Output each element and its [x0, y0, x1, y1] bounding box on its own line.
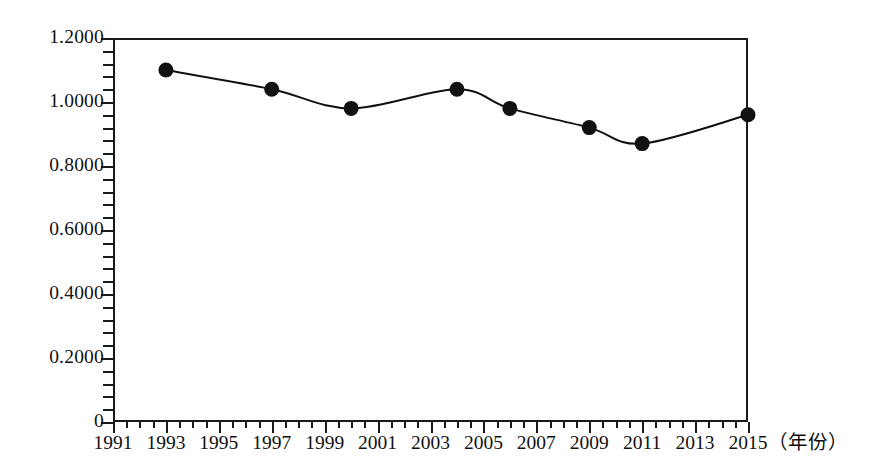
- y-axis-minor-tick: [103, 409, 113, 411]
- y-axis-minor-tick: [103, 307, 113, 309]
- x-axis-tick-label: 2003: [411, 432, 450, 453]
- y-axis-minor-tick: [103, 179, 113, 181]
- x-axis-tick-label: 2015: [729, 432, 768, 453]
- x-axis-minor-tick: [457, 422, 459, 428]
- x-axis-minor-tick: [510, 422, 512, 428]
- y-axis-minor-tick: [103, 268, 113, 270]
- y-axis-tick-label: 0.8000: [49, 155, 104, 175]
- x-axis-minor-tick: [523, 422, 525, 428]
- x-axis-minor-tick: [245, 422, 247, 428]
- x-axis-tick-label: 2007: [517, 432, 556, 453]
- x-axis-minor-tick: [708, 422, 710, 428]
- x-axis-minor-tick: [602, 422, 604, 428]
- y-axis-minor-tick: [103, 76, 113, 78]
- y-axis-minor-tick: [103, 396, 113, 398]
- plot-area-frame: [113, 38, 748, 422]
- y-axis-tick-label: 1.2000: [49, 27, 104, 47]
- x-axis-minor-tick: [404, 422, 406, 428]
- x-axis-minor-tick: [153, 422, 155, 428]
- x-axis-minor-tick: [576, 422, 578, 428]
- y-axis-minor-tick: [103, 345, 113, 347]
- y-axis-tick-label: 0.4000: [49, 283, 104, 303]
- x-axis-minor-tick: [444, 422, 446, 428]
- x-axis-minor-tick: [616, 422, 618, 428]
- y-axis-minor-tick: [103, 204, 113, 206]
- y-axis-minor-tick: [103, 115, 113, 117]
- x-axis-tick-label: 1999: [305, 432, 344, 453]
- x-axis-tick-label: 1995: [199, 432, 238, 453]
- y-axis-minor-tick: [103, 320, 113, 322]
- x-axis-minor-tick: [259, 422, 261, 428]
- x-axis-minor-tick: [497, 422, 499, 428]
- x-axis-minor-tick: [417, 422, 419, 428]
- y-axis-tick-label: 0.2000: [49, 347, 104, 367]
- x-axis-minor-tick: [192, 422, 194, 428]
- y-axis-minor-tick: [103, 89, 113, 91]
- y-axis-tick-label: 1.0000: [49, 91, 104, 111]
- x-axis-minor-tick: [232, 422, 234, 428]
- x-axis-tick-label: 2013: [676, 432, 715, 453]
- y-axis-minor-tick: [103, 332, 113, 334]
- y-axis-minor-tick: [103, 243, 113, 245]
- x-axis-minor-tick: [629, 422, 631, 428]
- y-axis-minor-tick: [103, 128, 113, 130]
- x-axis-minor-tick: [139, 422, 141, 428]
- y-axis-minor-tick: [103, 371, 113, 373]
- x-axis-minor-tick: [338, 422, 340, 428]
- y-axis-tick-label: 0.6000: [49, 219, 104, 239]
- x-axis-minor-tick: [311, 422, 313, 428]
- y-axis-minor-tick: [103, 153, 113, 155]
- x-axis-minor-tick: [206, 422, 208, 428]
- x-axis-minor-tick: [126, 422, 128, 428]
- x-axis-minor-tick: [722, 422, 724, 428]
- y-axis-minor-tick: [103, 192, 113, 194]
- y-axis-minor-tick: [103, 384, 113, 386]
- y-axis-tick-label: 0: [94, 411, 104, 431]
- x-axis-minor-tick: [682, 422, 684, 428]
- y-axis-minor-tick: [103, 51, 113, 53]
- x-axis-minor-tick: [550, 422, 552, 428]
- x-axis-minor-tick: [179, 422, 181, 428]
- y-axis-minor-tick: [103, 140, 113, 142]
- y-axis-minor-tick: [103, 256, 113, 258]
- x-axis-tick-label: 2005: [464, 432, 503, 453]
- x-axis-minor-tick: [364, 422, 366, 428]
- x-axis-tick-label: 1991: [94, 432, 133, 453]
- x-axis-minor-tick: [655, 422, 657, 428]
- x-axis-tick-label: 1997: [252, 432, 291, 453]
- x-axis-minor-tick: [391, 422, 393, 428]
- y-axis-minor-tick: [103, 64, 113, 66]
- x-axis-minor-tick: [669, 422, 671, 428]
- x-axis-minor-tick: [735, 422, 737, 428]
- x-axis-minor-tick: [470, 422, 472, 428]
- x-axis-minor-tick: [298, 422, 300, 428]
- line-chart: 1.20001.00000.80000.60000.40000.20000 19…: [0, 0, 883, 475]
- y-axis-minor-tick: [103, 217, 113, 219]
- x-axis-tick-label: 2009: [570, 432, 609, 453]
- x-axis-tick-label: 1993: [146, 432, 185, 453]
- x-axis-minor-tick: [351, 422, 353, 428]
- x-axis-tick-label: 2011: [623, 432, 661, 453]
- x-axis-minor-tick: [563, 422, 565, 428]
- y-axis-minor-tick: [103, 281, 113, 283]
- x-axis-tick-label: 2001: [358, 432, 397, 453]
- x-axis-minor-tick: [285, 422, 287, 428]
- x-axis-title: （年份）: [768, 432, 848, 453]
